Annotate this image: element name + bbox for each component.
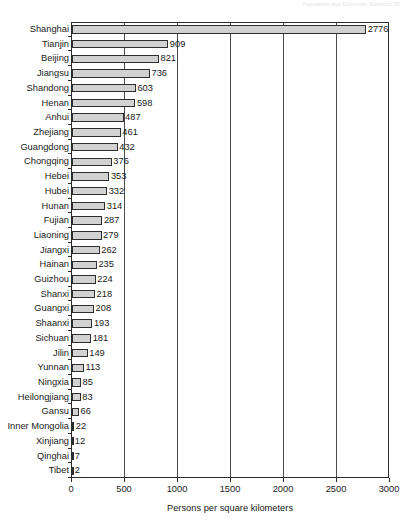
category-label-liaoning: Liaoning xyxy=(34,228,69,243)
bar-jiangsu xyxy=(72,69,150,77)
bar-value-guizhou: 224 xyxy=(97,272,113,287)
population-density-bar-chart: Shanghai2776Tianjin909Beijing821Jiangsu7… xyxy=(0,0,403,527)
bar-row: Sichuan181 xyxy=(0,331,403,346)
category-label-zhejiang: Zhejiang xyxy=(33,125,69,140)
category-label-gansu: Gansu xyxy=(42,404,69,419)
bar-value-tianjin: 909 xyxy=(170,37,186,52)
bar-value-jiangxi: 262 xyxy=(101,243,117,258)
bar-yunnan xyxy=(72,364,84,372)
bar-value-sichuan: 181 xyxy=(93,331,109,346)
category-label-xinjiang: Xinjiang xyxy=(36,434,69,449)
bar-value-tibet: 2 xyxy=(75,463,80,478)
x-axis-tick-labels: 050010001500200025003000 xyxy=(0,483,403,497)
bar-guangxi xyxy=(72,305,94,313)
x-tick-mark-3000 xyxy=(389,478,390,482)
bar-row: Chongqing376 xyxy=(0,154,403,169)
category-label-hunan: Hunan xyxy=(42,199,69,214)
bar-xinjiang xyxy=(72,437,74,445)
category-label-hebei: Hebei xyxy=(45,169,69,184)
category-label-heilongjiang: Heilongjiang xyxy=(18,390,69,405)
bar-row: Guangdong432 xyxy=(0,140,403,155)
bar-value-hubei: 332 xyxy=(109,184,125,199)
category-label-beijing: Beijing xyxy=(41,51,69,66)
bar-value-liaoning: 279 xyxy=(103,228,119,243)
bar-value-xinjiang: 12 xyxy=(75,434,85,449)
bar-hubei xyxy=(72,187,107,195)
bar-rows: Shanghai2776Tianjin909Beijing821Jiangsu7… xyxy=(0,22,403,478)
bar-row: Xinjiang12 xyxy=(0,434,403,449)
bar-qinghai xyxy=(72,452,74,460)
bar-value-heilongjiang: 83 xyxy=(82,390,92,405)
x-tick-label-3000: 3000 xyxy=(379,483,400,496)
category-label-guangxi: Guangxi xyxy=(34,301,69,316)
bar-ningxia xyxy=(72,378,81,386)
bar-row: Zhejiang461 xyxy=(0,125,403,140)
bar-shandong xyxy=(72,84,136,92)
bar-beijing xyxy=(72,55,159,63)
x-tick-label-500: 500 xyxy=(116,483,132,496)
x-tick-mark-2500 xyxy=(336,478,337,482)
bar-row: Jiangxi262 xyxy=(0,243,403,258)
category-label-henan: Henan xyxy=(42,96,69,111)
bar-row: Shaanxi193 xyxy=(0,316,403,331)
bar-guangdong xyxy=(72,143,118,151)
bar-shanxi xyxy=(72,290,95,298)
bar-value-jilin: 149 xyxy=(89,346,105,361)
category-label-fujian: Fujian xyxy=(44,213,69,228)
bar-row: Shanghai2776 xyxy=(0,22,403,37)
bar-fujian xyxy=(72,216,102,224)
bar-tianjin xyxy=(72,40,168,48)
category-label-guangdong: Guangdong xyxy=(20,140,69,155)
bar-value-hainan: 235 xyxy=(98,257,114,272)
bar-row: Jilin149 xyxy=(0,346,403,361)
bar-value-beijing: 821 xyxy=(161,51,177,66)
bar-value-inner-mongolia: 22 xyxy=(76,419,86,434)
bar-row: Gansu66 xyxy=(0,404,403,419)
bar-row: Jiangsu736 xyxy=(0,66,403,81)
bar-hunan xyxy=(72,202,105,210)
bar-row: Tianjin909 xyxy=(0,37,403,52)
category-label-shanghai: Shanghai xyxy=(30,22,69,37)
bar-row: Anhui487 xyxy=(0,110,403,125)
category-label-shaanxi: Shaanxi xyxy=(35,316,69,331)
x-tick-mark-2000 xyxy=(283,478,284,482)
bar-value-ningxia: 85 xyxy=(83,375,93,390)
bar-value-hunan: 314 xyxy=(107,199,123,214)
category-label-shanxi: Shanxi xyxy=(41,287,69,302)
x-tick-mark-0 xyxy=(71,478,72,482)
bar-row: Guizhou224 xyxy=(0,272,403,287)
bar-gansu xyxy=(72,408,79,416)
category-label-sichuan: Sichuan xyxy=(35,331,69,346)
bar-inner-mongolia xyxy=(72,422,74,430)
bar-value-hebei: 353 xyxy=(111,169,127,184)
bar-row: Henan598 xyxy=(0,96,403,111)
bar-row: Hubei332 xyxy=(0,184,403,199)
bar-henan xyxy=(72,99,135,107)
bar-zhejiang xyxy=(72,128,121,136)
bar-shanghai xyxy=(72,25,366,33)
x-tick-mark-1500 xyxy=(230,478,231,482)
bar-guizhou xyxy=(72,275,96,283)
bar-value-jiangsu: 736 xyxy=(152,66,168,81)
bar-row: Inner Mongolia22 xyxy=(0,419,403,434)
x-tick-mark-1000 xyxy=(177,478,178,482)
bar-row: Heilongjiang83 xyxy=(0,390,403,405)
category-label-tibet: Tibet xyxy=(49,463,69,478)
bar-row: Yunnan113 xyxy=(0,360,403,375)
bar-row: Beijing821 xyxy=(0,51,403,66)
bar-row: Hunan314 xyxy=(0,199,403,214)
category-label-ningxia: Ningxia xyxy=(38,375,69,390)
bar-value-shandong: 603 xyxy=(137,81,153,96)
bar-value-qinghai: 7 xyxy=(75,449,80,464)
bar-jilin xyxy=(72,349,88,357)
bar-value-chongqing: 376 xyxy=(113,154,129,169)
bar-row: Shanxi218 xyxy=(0,287,403,302)
category-label-chongqing: Chongqing xyxy=(24,154,69,169)
bar-row: Fujian287 xyxy=(0,213,403,228)
bar-value-henan: 598 xyxy=(137,96,153,111)
bar-value-shanxi: 218 xyxy=(97,287,113,302)
x-tick-label-2000: 2000 xyxy=(273,483,294,496)
category-label-tianjin: Tianjin xyxy=(42,37,69,52)
bar-row: Liaoning279 xyxy=(0,228,403,243)
bar-anhui xyxy=(72,113,124,121)
